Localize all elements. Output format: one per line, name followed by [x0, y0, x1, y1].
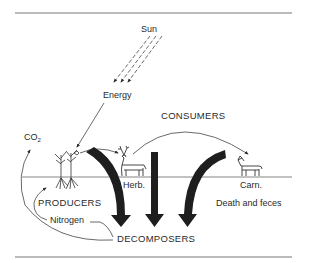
co2-main: CO [24, 132, 38, 142]
death-feces-label: Death and feces [216, 199, 282, 208]
co2-label: CO2 [24, 133, 41, 143]
herbivore-to-carnivore-arrow [133, 132, 248, 154]
decomposers-label: DECOMPOSERS [117, 234, 195, 244]
right-curved-arrow [178, 150, 226, 227]
sun-rays-icon [114, 36, 162, 82]
co2-cycle-arrow [21, 150, 113, 240]
producers-label: PRODUCERS [38, 198, 101, 208]
carn-label: Carn. [240, 181, 262, 190]
ecosystem-diagram [0, 0, 309, 263]
carnivore-animal-icon [238, 156, 262, 176]
middle-straight-arrow [145, 152, 164, 227]
consumers-label: CONSUMERS [161, 111, 225, 121]
energy-label: Energy [103, 91, 132, 100]
herbivore-deer-icon [118, 146, 146, 176]
herb-label: Herb. [123, 181, 145, 190]
energy-arrow [77, 103, 104, 147]
sun-label: Sun [141, 25, 157, 34]
death-feces-arrows [86, 147, 226, 227]
nitrogen-cycle-arrow [90, 222, 113, 237]
nitrogen-label: Nitrogen [50, 216, 84, 225]
producers-plant-icon [55, 150, 79, 189]
co2-subscript: 2 [38, 137, 41, 143]
